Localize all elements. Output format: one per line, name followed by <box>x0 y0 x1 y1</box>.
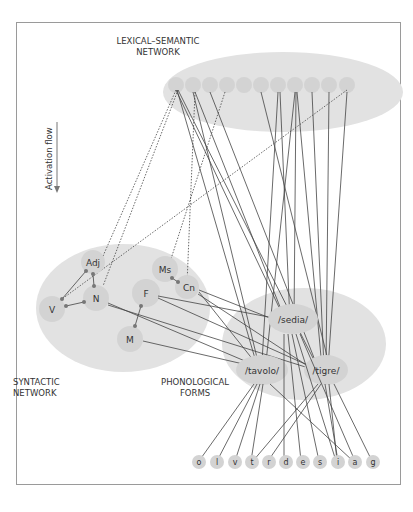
svg-text:o: o <box>197 458 202 467</box>
phonological-label-line2: FORMS <box>180 388 210 398</box>
lexical-label-line1: LEXICAL–SEMANTIC <box>116 36 199 46</box>
arrow-head-icon <box>54 186 60 193</box>
svg-text:v: v <box>233 458 238 467</box>
phonological-label-line1: PHONOLOGICAL <box>161 377 229 387</box>
activation-flow-label: Activation flow <box>44 127 54 190</box>
form-sedia: /sedia/ <box>278 315 309 325</box>
lexical-label-line2: NETWORK <box>136 47 180 57</box>
node-m: M <box>126 335 134 345</box>
svg-text:i: i <box>337 458 339 467</box>
network-diagram: LEXICAL–SEMANTIC NETWORK SYNTACTIC NETWO… <box>0 0 413 512</box>
node-n: N <box>93 294 100 304</box>
node-adj: Adj <box>86 258 100 268</box>
svg-text:t: t <box>250 458 253 467</box>
lexical-nodes <box>168 77 355 93</box>
svg-text:s: s <box>318 458 322 467</box>
svg-text:d: d <box>283 458 288 467</box>
svg-text:a: a <box>353 458 358 467</box>
node-f: F <box>143 289 148 299</box>
syntactic-label-line1: SYNTACTIC <box>13 377 60 387</box>
svg-text:g: g <box>370 458 375 467</box>
syntactic-label-line2: NETWORK <box>13 388 57 398</box>
form-tigre: /tigre/ <box>313 366 341 376</box>
node-ms: Ms <box>159 265 172 275</box>
svg-text:e: e <box>301 458 306 467</box>
node-cn: Cn <box>183 283 195 293</box>
lexical-semantic-ellipse <box>163 52 403 132</box>
form-tavolo: /tavolo/ <box>245 366 280 376</box>
node-v: V <box>49 305 56 315</box>
svg-text:l: l <box>216 458 218 467</box>
